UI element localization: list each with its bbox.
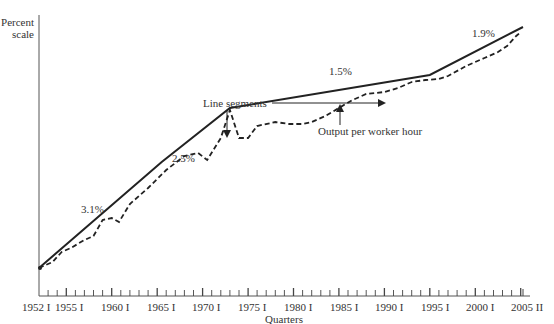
y-axis-label-line1: Percent [1, 16, 34, 28]
x-tick-label: 1975 I [238, 301, 267, 313]
trend-line-segments [39, 27, 523, 268]
output-per-worker-hour-line [39, 32, 521, 268]
x-axis-ticks [48, 288, 523, 296]
growth-label-1995-2005: 1.9% [472, 27, 495, 39]
line-segments-annotation: Line segments [203, 97, 267, 109]
productivity-chart: Percent scale 1952 I 1955 I 1960 I 1965 … [0, 0, 554, 324]
x-tick-label: 1960 I [101, 301, 130, 313]
x-tick-label: 1952 I [22, 301, 51, 313]
series-start-point [38, 266, 42, 270]
x-tick-label: 2000 I [466, 301, 495, 313]
output-per-worker-hour-annotation: Output per worker hour [318, 125, 423, 137]
y-axis-label-line2: scale [12, 28, 34, 40]
x-tick-labels: 1952 I 1955 I 1960 I 1965 I 1970 I 1975 … [22, 301, 543, 313]
x-tick-label: 1990 I [375, 301, 404, 313]
x-tick-label: 1985 I [330, 301, 359, 313]
arrow-right-head-icon [378, 99, 386, 107]
x-axis-label: Quarters [265, 313, 303, 324]
x-tick-label: 1955 I [55, 301, 84, 313]
x-tick-label: 1970 I [192, 301, 221, 313]
x-tick-label: 1995 I [421, 301, 450, 313]
x-tick-label: 1980 I [284, 301, 313, 313]
x-tick-label: 1965 I [147, 301, 176, 313]
growth-label-1973-1995: 1.5% [329, 65, 352, 77]
x-tick-label: 2005 II [511, 301, 543, 313]
growth-label-1965-1973: 2.5% [172, 152, 195, 164]
growth-label-1952-1965: 3.1% [81, 203, 104, 215]
arrow-down-head-icon [223, 130, 231, 138]
